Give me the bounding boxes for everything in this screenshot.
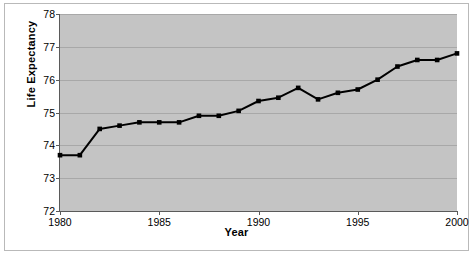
data-point-marker [355,87,360,92]
line-series [60,14,457,211]
x-tick-mark [159,211,160,215]
data-point-marker [296,86,301,91]
data-point-marker [217,113,222,118]
data-point-marker [78,153,83,158]
data-point-marker [336,91,341,96]
data-point-marker [256,99,261,104]
data-point-marker [455,51,460,56]
y-tick-label: 74 [43,139,55,151]
x-tick-mark [60,211,61,215]
y-tick-label: 77 [43,41,55,53]
data-point-marker [117,123,122,128]
y-tick-label: 73 [43,172,55,184]
data-point-marker [177,120,182,125]
data-point-marker [276,95,281,100]
data-point-marker [137,120,142,125]
y-tick-label: 76 [43,74,55,86]
x-tick-mark [259,211,260,215]
data-point-marker [375,77,380,82]
data-point-marker [435,58,440,63]
plot-area: 72737475767778 19801985199019952000 [59,14,457,212]
data-point-marker [236,109,241,114]
data-point-marker [58,153,63,158]
x-tick-mark [358,211,359,215]
data-point-marker [197,113,202,118]
y-tick-label: 75 [43,107,55,119]
y-tick-label: 78 [43,8,55,20]
data-point-marker [395,64,400,69]
data-point-marker [157,120,162,125]
data-point-marker [97,127,102,132]
x-axis-title: Year [5,226,468,238]
data-point-marker [316,97,321,102]
y-axis-title: Life Expectancy [25,0,37,134]
x-tick-mark [457,211,458,215]
data-point-marker [415,58,420,63]
caption-text [0,255,474,267]
chart-frame: Life Expectancy 72737475767778 198019851… [4,3,469,251]
